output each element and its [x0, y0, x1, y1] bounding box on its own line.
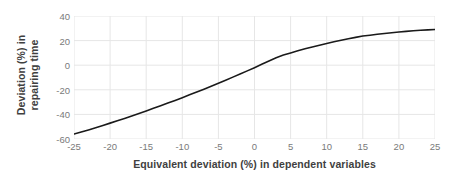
chart-figure: Deviation (%) in repairing time -60-40-2… [0, 0, 452, 181]
y-tick-label: -20 [46, 84, 70, 95]
x-tick-label: 25 [430, 141, 441, 152]
y-axis-title-line-2: repairing time [28, 35, 41, 115]
x-tick-label: 15 [358, 141, 369, 152]
x-axis-tick-labels: -25-20-15-10-50510152025 [74, 141, 435, 155]
y-axis-title-text: Deviation (%) in repairing time [15, 35, 41, 115]
x-tick-label: 10 [321, 141, 332, 152]
x-tick-label: 5 [288, 141, 293, 152]
x-axis-title: Equivalent deviation (%) in dependent va… [74, 158, 435, 170]
x-tick-label: -5 [214, 141, 222, 152]
x-tick-label: -10 [175, 141, 189, 152]
x-tick-label: 20 [394, 141, 405, 152]
data-line-series [74, 16, 435, 139]
y-axis-tick-labels: -60-40-2002040 [46, 16, 70, 139]
series-line [74, 30, 435, 135]
x-tick-label: 0 [252, 141, 257, 152]
x-tick-label: -25 [67, 141, 81, 152]
x-tick-label: -20 [103, 141, 117, 152]
y-tick-label: 0 [46, 60, 70, 71]
plot-area [74, 16, 435, 139]
y-axis-title-line-1: Deviation (%) in [15, 35, 28, 115]
x-tick-label: -15 [139, 141, 153, 152]
y-tick-label: -40 [46, 109, 70, 120]
y-tick-label: 40 [46, 11, 70, 22]
y-tick-label: 20 [46, 35, 70, 46]
